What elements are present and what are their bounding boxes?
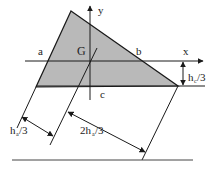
triangle xyxy=(36,11,178,87)
slant-line-right xyxy=(142,86,178,160)
side-b-label: b xyxy=(136,45,142,57)
side-a-label: a xyxy=(38,45,43,57)
slant-line-left xyxy=(17,87,36,128)
hc-third-label: h c /3 xyxy=(188,71,206,84)
svg-text:/3: /3 xyxy=(95,124,104,136)
ha-third-label: h a /3 xyxy=(10,124,28,137)
svg-text:/3: /3 xyxy=(197,71,206,83)
two-ha-third-label: 2h a /3 xyxy=(80,124,104,137)
centroid-label: G xyxy=(77,44,86,58)
svg-text:2h: 2h xyxy=(80,124,92,136)
side-c-label: c xyxy=(100,88,105,100)
svg-text:/3: /3 xyxy=(19,124,28,136)
x-axis-label: x xyxy=(183,45,189,57)
y-axis-label: y xyxy=(98,4,104,16)
triangle-diagram: y x G a b c h c /3 h a /3 2h a /3 xyxy=(0,0,216,171)
